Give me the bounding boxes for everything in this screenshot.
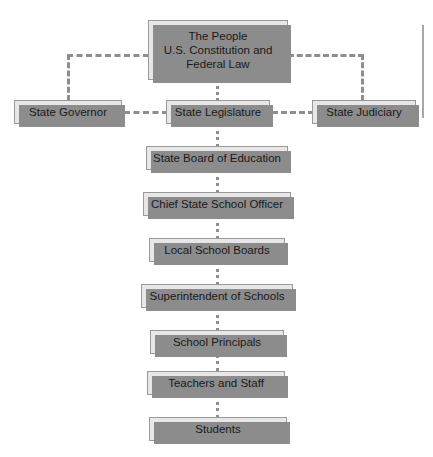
connector-people-to-legislature xyxy=(216,80,219,101)
node-superintendent-of-schools-label: Superintendent of Schools xyxy=(144,289,291,303)
node-state-governor-label: State Governor xyxy=(23,105,113,119)
node-state-legislature-label: State Legislature xyxy=(169,105,267,119)
node-state-board-of-education: State Board of Education xyxy=(146,146,288,170)
node-school-principals-label: School Principals xyxy=(167,335,267,349)
node-state-governor: State Governor xyxy=(14,100,122,124)
connector-chief-officer-to-local-boards xyxy=(216,216,219,239)
connector-teachers-to-students xyxy=(216,395,219,418)
connector-legislature-to-state-board xyxy=(216,124,219,147)
connector-people-to-judiciary-horizontal xyxy=(288,54,364,57)
node-chief-state-school-officer-label: Chief State School Officer xyxy=(145,197,289,211)
node-students: Students xyxy=(149,417,287,441)
connector-local-boards-to-superintendent xyxy=(216,262,219,285)
connector-legislature-to-judiciary xyxy=(272,111,314,114)
connector-governor-to-legislature xyxy=(124,111,168,114)
connector-people-to-governor-vertical xyxy=(67,54,70,101)
right-margin-rule xyxy=(422,25,424,118)
connector-people-to-governor-horizontal xyxy=(67,54,149,57)
connector-superintendent-to-principals xyxy=(216,308,219,331)
connector-people-to-judiciary-vertical xyxy=(361,54,364,101)
node-state-legislature: State Legislature xyxy=(166,100,270,124)
organization-chart: The People U.S. Constitution and Federal… xyxy=(0,0,433,457)
node-school-principals: School Principals xyxy=(150,330,284,354)
connector-state-board-to-chief-officer xyxy=(216,170,219,193)
node-local-school-boards: Local School Boards xyxy=(149,238,285,262)
node-state-judiciary: State Judiciary xyxy=(312,100,416,124)
node-superintendent-of-schools: Superintendent of Schools xyxy=(141,284,293,308)
node-the-people: The People U.S. Constitution and Federal… xyxy=(148,20,288,80)
node-the-people-label: The People U.S. Constitution and Federal… xyxy=(158,29,279,71)
node-state-judiciary-label: State Judiciary xyxy=(320,105,407,119)
node-state-board-of-education-label: State Board of Education xyxy=(147,151,287,165)
node-teachers-and-staff: Teachers and Staff xyxy=(147,371,285,395)
node-students-label: Students xyxy=(189,422,246,436)
node-local-school-boards-label: Local School Boards xyxy=(158,243,275,257)
node-teachers-and-staff-label: Teachers and Staff xyxy=(162,376,270,390)
node-chief-state-school-officer: Chief State School Officer xyxy=(143,192,291,216)
